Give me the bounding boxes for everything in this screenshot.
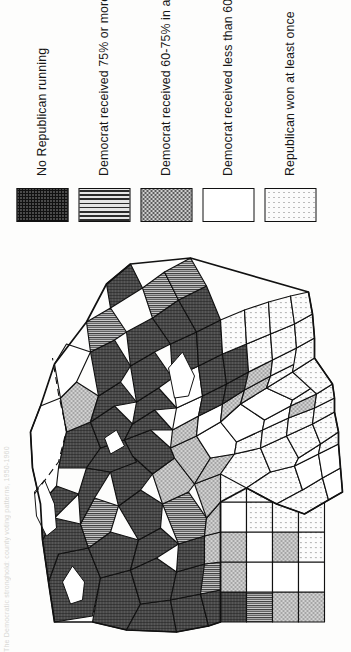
legend-item-no-republican-running[interactable]: No Republican running [16,6,68,222]
legend-swatch-democrat-75-or-more [78,188,130,222]
legend-label-democrat-75-or-more: Democrat received 75% or more in all ele… [97,0,110,176]
legend-item-democrat-under-60-always-won[interactable]: Democrat received less than 60% in at le… [202,6,254,222]
plate-caption: The Democratic stronghold: county voting… [2,12,14,652]
legend-label-democrat-60-75: Democrat received 60-75% in at least one… [159,0,172,176]
legend-swatch-democrat-under-60-always-won [202,188,254,222]
county-choropleth-map [14,224,344,644]
legend-item-democrat-60-75[interactable]: Democrat received 60-75% in at least one… [140,6,192,222]
legend-item-republican-won-at-least-once[interactable]: Republican won at least once [264,6,316,222]
map-svg [14,224,344,644]
legend-label-no-republican-running: No Republican running [35,48,48,176]
legend-swatch-no-republican-running [16,188,68,222]
legend-label-republican-won-at-least-once: Republican won at least once [283,11,296,176]
legend-swatch-republican-won-at-least-once [264,188,316,222]
rotated-figure-plate: The Democratic stronghold: county voting… [0,0,351,652]
map-legend: No Republican running Democrat received … [16,6,336,222]
legend-swatch-democrat-60-75 [140,188,192,222]
legend-label-democrat-under-60-always-won: Democrat received less than 60% in at le… [221,0,234,176]
legend-item-democrat-75-or-more[interactable]: Democrat received 75% or more in all ele… [78,6,130,222]
page-canvas: The Democratic stronghold: county voting… [0,0,351,652]
